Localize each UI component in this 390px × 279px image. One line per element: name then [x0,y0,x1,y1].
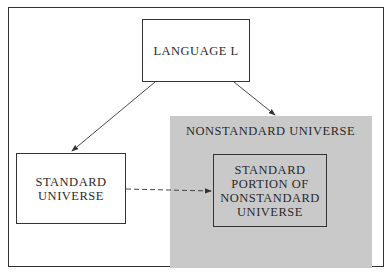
edge-standard-to-portion-dashed [126,189,211,191]
edges-layer [0,0,390,279]
edge-language-to-nonstandard [234,82,275,115]
edge-language-to-standard [72,82,155,151]
